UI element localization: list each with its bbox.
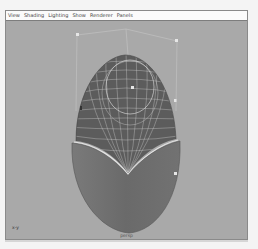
control-point[interactable]: [131, 86, 134, 89]
control-point[interactable]: [175, 39, 178, 42]
viewport-menu-bar: View Shading Lighting Show Renderer Pane…: [6, 11, 247, 21]
panel-shadow: [5, 240, 248, 242]
menu-shading[interactable]: Shading: [24, 11, 44, 20]
viewport-panel[interactable]: View Shading Lighting Show Renderer Pane…: [5, 10, 248, 240]
3d-view-area[interactable]: x-y persp: [6, 21, 247, 239]
menu-panels[interactable]: Panels: [117, 11, 133, 20]
menu-view[interactable]: View: [8, 11, 20, 20]
menu-show[interactable]: Show: [72, 11, 86, 20]
control-point[interactable]: [174, 99, 177, 102]
control-point[interactable]: [174, 172, 177, 175]
control-point[interactable]: [76, 33, 79, 36]
scene-render: [6, 21, 247, 239]
axis-gizmo: x-y: [12, 225, 19, 230]
camera-label: persp: [120, 233, 133, 238]
pivot-marker: [80, 106, 82, 110]
menu-renderer[interactable]: Renderer: [90, 11, 113, 20]
menu-lighting[interactable]: Lighting: [48, 11, 68, 20]
